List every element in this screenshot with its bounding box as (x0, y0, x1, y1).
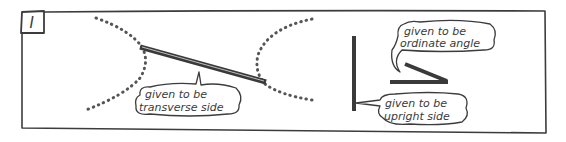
transverse-side-line (140, 47, 266, 82)
transverse-side-callout: given to be transverse side (136, 72, 241, 116)
callout-line-2: ordinate angle (400, 37, 480, 50)
callout-line-2: transverse side (139, 101, 224, 114)
panel-label: I (30, 14, 35, 32)
upright-side-callout: given to be upright side (356, 93, 467, 125)
callout-line-1: given to be (145, 88, 207, 101)
diagram-panel: I given to be transverse side given to b… (0, 0, 566, 142)
callout-line-1: given to be (385, 97, 447, 110)
ordinate-angle (390, 64, 448, 82)
left-hyperbola-branch (86, 18, 146, 110)
callout-line-2: upright side (384, 110, 450, 123)
right-hyperbola-branch (257, 19, 312, 100)
diagram-svg: I given to be transverse side given to b… (0, 0, 566, 142)
